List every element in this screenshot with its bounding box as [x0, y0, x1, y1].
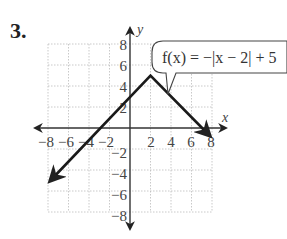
svg-text:−6: −6	[111, 187, 127, 203]
x-axis-label: x	[221, 110, 229, 125]
svg-text:4: 4	[120, 79, 128, 95]
y-tick-labels: 8 6 4 2 −2 −4 −6 −8	[111, 37, 127, 224]
y-axis-label: y	[135, 22, 144, 37]
svg-text:−2: −2	[111, 145, 127, 161]
svg-text:−4: −4	[111, 166, 127, 182]
svg-text:2: 2	[147, 134, 155, 150]
svg-text:6: 6	[187, 134, 195, 150]
function-label: f(x) = −|x − 2| + 5	[162, 49, 276, 67]
svg-text:4: 4	[167, 134, 175, 150]
svg-text:6: 6	[120, 58, 128, 74]
graph: x y −8 −6 −4 −2 2 4 6 8 8 6 4 2 −2 −4 −6…	[0, 0, 287, 239]
svg-text:−8: −8	[38, 134, 54, 150]
svg-text:8: 8	[120, 37, 128, 53]
svg-text:−8: −8	[111, 208, 127, 224]
svg-text:−6: −6	[58, 134, 74, 150]
svg-text:8: 8	[207, 134, 215, 150]
